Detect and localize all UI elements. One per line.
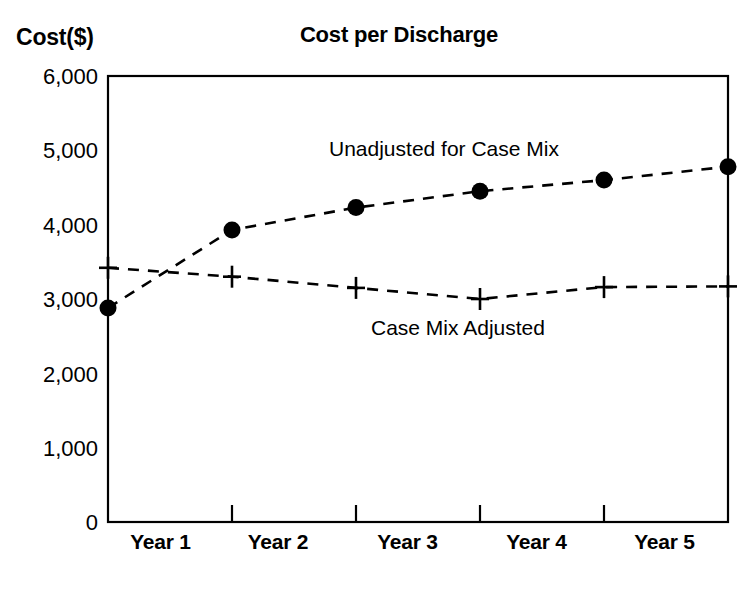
- data-point-marker-plus: [347, 277, 365, 299]
- data-point-marker-plus: [719, 275, 737, 297]
- data-point-marker-circle: [348, 199, 365, 216]
- plot-area: [0, 0, 754, 590]
- plot-frame: [108, 76, 728, 522]
- data-point-marker-circle: [472, 183, 489, 200]
- series-line: [108, 268, 728, 299]
- x-axis-ticks: [232, 505, 604, 522]
- data-point-marker-plus: [595, 276, 613, 298]
- series-layer: [99, 158, 737, 316]
- data-point-marker-plus: [471, 288, 489, 310]
- data-point-marker-circle: [224, 221, 241, 238]
- data-point-marker-plus: [99, 257, 117, 279]
- data-point-marker-circle: [720, 158, 737, 175]
- series-case-mix-adjusted: [99, 257, 737, 310]
- chart-figure: Cost($) Cost per Discharge 6,000 5,000 4…: [0, 0, 754, 590]
- series-unadjusted: [100, 158, 737, 316]
- data-point-marker-plus: [223, 266, 241, 288]
- data-point-marker-circle: [100, 299, 117, 316]
- data-point-marker-circle: [596, 172, 613, 189]
